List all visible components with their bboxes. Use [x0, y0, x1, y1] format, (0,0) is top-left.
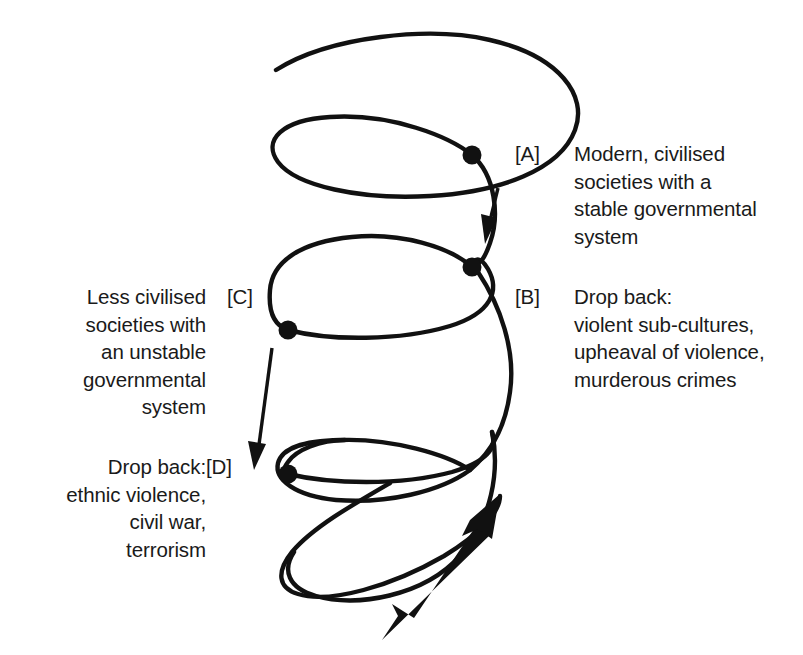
marker-label-b: [B]: [515, 283, 540, 311]
node-dot-c: [279, 321, 298, 340]
spiral-curve: [270, 34, 578, 601]
annotation-text-b: Drop back: violent sub-cultures, upheava…: [574, 283, 802, 393]
annotation-text-a: Modern, civilised societies with a stabl…: [574, 140, 800, 250]
node-dot-a: [463, 146, 482, 165]
marker-label-a: [A]: [515, 140, 540, 168]
spiral-diagram: [A] Modern, civilised societies with a s…: [0, 0, 803, 655]
upward-progress-arrow-icon: [382, 494, 500, 640]
drop-back-arrow-c-icon: [248, 348, 272, 470]
annotation-text-c: Less civilised societies with an unstabl…: [46, 283, 206, 421]
marker-label-d: [D]: [206, 453, 232, 481]
node-dot-b: [463, 258, 482, 277]
node-dot-d: [279, 465, 298, 484]
marker-label-c: [C]: [227, 283, 253, 311]
annotation-text-d: Drop back: ethnic violence, civil war, t…: [30, 453, 206, 563]
